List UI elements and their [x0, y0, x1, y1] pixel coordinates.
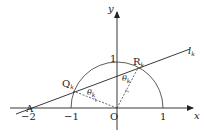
- point-Q-label: Qk: [62, 78, 74, 90]
- segment-OR: [117, 68, 138, 108]
- point-R-label: Rk: [133, 56, 145, 68]
- angle-theta-R: θk: [122, 74, 131, 84]
- line-l-k: [16, 49, 190, 114]
- angle-theta-Q: θk: [87, 88, 96, 98]
- geometry-figure: y x O −2 −1 1 1 A Qk Rk lk θk θk: [0, 0, 210, 139]
- point-A-label: A: [25, 103, 34, 114]
- y-tick-1: 1: [110, 53, 116, 64]
- y-axis-label: y: [107, 3, 114, 14]
- x-tick-neg1: −1: [64, 111, 79, 122]
- line-l-label: lk: [188, 45, 195, 57]
- x-tick-1: 1: [160, 111, 166, 122]
- x-axis-label: x: [194, 110, 200, 121]
- origin-label: O: [110, 111, 118, 122]
